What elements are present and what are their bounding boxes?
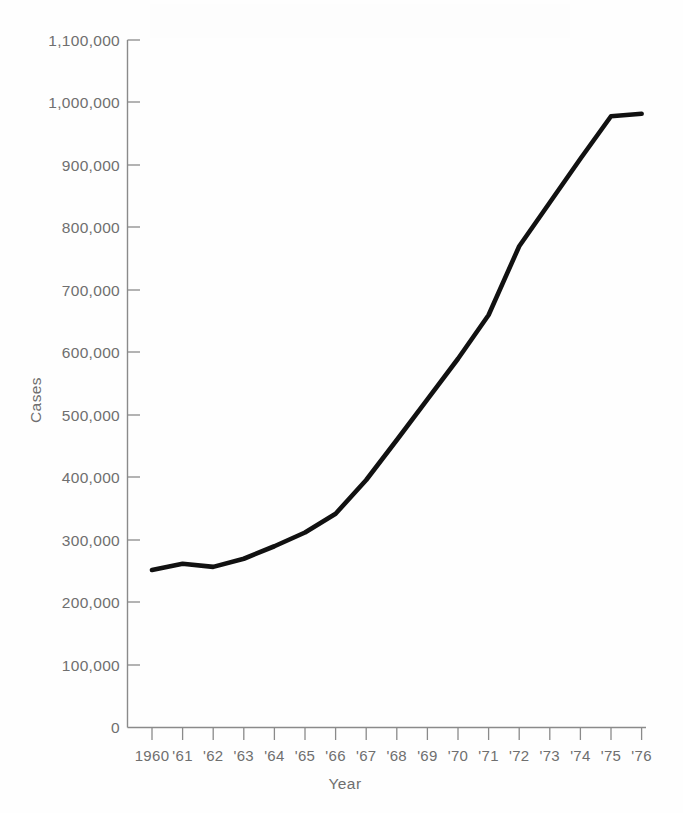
x-tick-labels: 1960 '61 '62 '63 '64 '65 '66 '67 '68 '69… bbox=[135, 747, 652, 764]
y-tick-label: 900,000 bbox=[62, 157, 120, 174]
y-tick-label: 300,000 bbox=[62, 532, 120, 549]
y-tick-label: 500,000 bbox=[62, 407, 120, 424]
x-tick-label: '62 bbox=[203, 747, 223, 764]
chart-page: 1,100,000 1,000,000 900,000 800,000 700,… bbox=[0, 0, 683, 813]
x-tick-label: 1960 bbox=[135, 747, 170, 764]
x-axis-title: Year bbox=[329, 775, 362, 792]
y-tick-label: 1,000,000 bbox=[48, 94, 120, 111]
x-tick-label: '67 bbox=[356, 747, 376, 764]
y-tick-label: 1,100,000 bbox=[48, 32, 120, 49]
y-axis-title: Cases bbox=[27, 377, 44, 423]
x-tick-label: '69 bbox=[417, 747, 437, 764]
y-tick-label: 600,000 bbox=[62, 344, 120, 361]
x-tick-label: '64 bbox=[264, 747, 284, 764]
y-tick-label: 0 bbox=[111, 719, 120, 736]
y-tick-marks bbox=[128, 40, 141, 665]
y-tick-labels: 1,100,000 1,000,000 900,000 800,000 700,… bbox=[48, 32, 120, 736]
x-tick-marks bbox=[152, 728, 642, 741]
y-tick-label: 200,000 bbox=[62, 594, 120, 611]
line-chart: 1,100,000 1,000,000 900,000 800,000 700,… bbox=[0, 0, 683, 813]
x-tick-label: '63 bbox=[234, 747, 254, 764]
x-tick-label: '73 bbox=[540, 747, 560, 764]
x-tick-label: '66 bbox=[325, 747, 345, 764]
data-series-cases bbox=[152, 114, 642, 570]
x-tick-label: '68 bbox=[387, 747, 407, 764]
x-tick-label: '71 bbox=[478, 747, 498, 764]
x-tick-label: '72 bbox=[509, 747, 529, 764]
x-tick-label: '75 bbox=[601, 747, 621, 764]
y-tick-label: 400,000 bbox=[62, 469, 120, 486]
y-tick-label: 100,000 bbox=[62, 657, 120, 674]
x-tick-label: '61 bbox=[172, 747, 192, 764]
y-tick-label: 800,000 bbox=[62, 219, 120, 236]
y-tick-label: 700,000 bbox=[62, 282, 120, 299]
x-tick-label: '76 bbox=[631, 747, 651, 764]
x-tick-label: '65 bbox=[295, 747, 315, 764]
x-tick-label: '74 bbox=[570, 747, 590, 764]
x-tick-label: '70 bbox=[448, 747, 468, 764]
